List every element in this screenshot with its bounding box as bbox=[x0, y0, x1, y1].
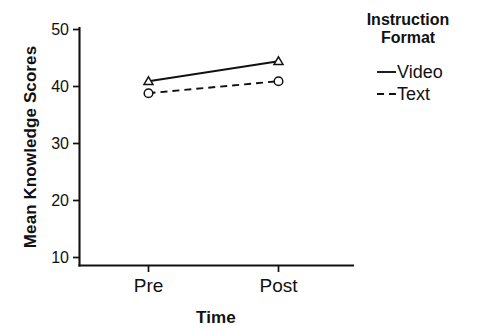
y-axis-title: Mean Knowledge Scores bbox=[21, 46, 40, 248]
legend-label-video: Video bbox=[397, 62, 443, 82]
y-tick-label-50: 50 bbox=[51, 21, 69, 38]
y-tick-label-20: 20 bbox=[51, 192, 69, 209]
chart-figure: 50 40 30 20 10 Pre Post Mean Knowledge S… bbox=[0, 0, 477, 332]
legend-title-line-1: Instruction bbox=[367, 11, 450, 28]
series-text-marker-pre bbox=[144, 89, 153, 98]
series-text-marker-post bbox=[274, 77, 283, 86]
y-tick-label-30: 30 bbox=[51, 135, 69, 152]
line-chart-canvas: 50 40 30 20 10 Pre Post Mean Knowledge S… bbox=[0, 0, 477, 332]
y-tick-label-40: 40 bbox=[51, 78, 69, 95]
x-tick-label-pre: Pre bbox=[134, 275, 164, 296]
x-axis-title: Time bbox=[196, 308, 236, 327]
y-tick-label-10: 10 bbox=[51, 249, 69, 266]
legend-title-line-2: Format bbox=[381, 29, 436, 46]
legend-label-text: Text bbox=[397, 84, 430, 104]
chart-background bbox=[0, 0, 477, 332]
x-tick-label-post: Post bbox=[259, 275, 298, 296]
